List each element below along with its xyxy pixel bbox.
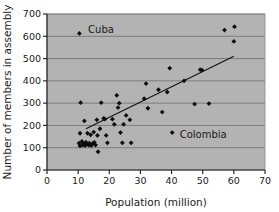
point-annotation-label: Colombia [180,129,227,140]
y-tick-label: 300 [23,97,41,108]
y-tick-label: 400 [23,75,41,86]
plot-area [47,14,265,170]
x-tick-label: 10 [72,175,84,186]
y-axis-title: Number of members in assembly [1,5,13,180]
y-tick-label: 200 [23,120,41,131]
point-annotation-label: Cuba [88,24,114,35]
y-axis-ticks: 0100200300400500600700 [23,8,47,175]
x-tick-label: 50 [197,175,209,186]
x-tick-label: 30 [134,175,146,186]
x-tick-label: 70 [259,175,271,186]
x-axis-ticks: 010203040506070 [44,170,271,186]
scatter-plot-figure: 0100200300400500600700 010203040506070 C… [0,0,279,212]
y-tick-label: 500 [23,53,41,64]
x-tick-label: 0 [44,175,50,186]
y-tick-label: 100 [23,142,41,153]
x-tick-label: 60 [228,175,240,186]
y-tick-label: 700 [23,8,41,19]
y-tick-label: 0 [35,164,41,175]
x-tick-label: 40 [166,175,178,186]
chart-canvas: 0100200300400500600700 010203040506070 C… [0,0,279,212]
x-axis-title: Population (million) [105,196,207,208]
y-tick-label: 600 [23,31,41,42]
x-tick-label: 20 [103,175,115,186]
